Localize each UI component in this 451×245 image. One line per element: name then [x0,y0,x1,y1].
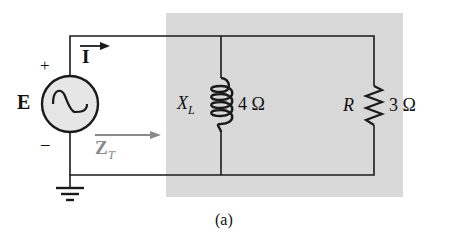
current-label: I [82,46,89,68]
ground-icon [56,188,84,200]
ac-source-icon [42,76,98,132]
resistor-name: R [343,95,354,116]
impedance-subscript: T [108,147,115,162]
shaded-region [166,13,403,197]
inductor-value: 4 Ω [238,94,265,115]
source-label: E [17,91,30,114]
source-minus-sign: – [41,134,50,154]
figure-caption: (a) [215,211,233,229]
inductor-name: XL [177,93,195,118]
resistor-value: 3 Ω [389,95,416,116]
inductor-symbol: X [177,93,188,113]
inductor-subscript: L [188,103,195,117]
impedance-symbol: Z [95,137,108,158]
impedance-label: ZT [95,137,115,163]
circuit-diagram [0,0,451,245]
source-plus-sign: + [40,56,50,76]
